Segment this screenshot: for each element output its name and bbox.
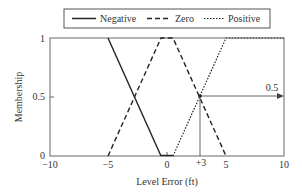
legend-label-negative: Negative	[100, 13, 137, 24]
x-tick-10: 10	[279, 159, 289, 170]
y-tick-1: 1	[40, 33, 45, 44]
x-tick-plus3: +3	[196, 157, 207, 168]
annotation-value: 0.5	[266, 82, 279, 93]
legend-label-positive: Positive	[228, 13, 261, 24]
x-tick-5: 5	[224, 159, 229, 170]
membership-chart: Negative Zero Positive 1 0.5 0 Membershi…	[0, 0, 302, 194]
series-positive	[173, 38, 284, 156]
legend-label-zero: Zero	[175, 13, 194, 24]
legend: Negative Zero Positive	[64, 9, 270, 28]
x-axis-label: Level Error (ft)	[136, 176, 198, 188]
y-tick-0-5: 0.5	[33, 91, 46, 102]
plot-area	[50, 38, 284, 156]
x-tick-neg5: −5	[103, 159, 114, 170]
x-tick-0: 0	[165, 159, 170, 170]
x-tick-neg10: −10	[42, 159, 58, 170]
intersection-point	[198, 94, 202, 98]
series-zero	[108, 38, 226, 156]
y-axis-label: Membership	[13, 72, 24, 123]
